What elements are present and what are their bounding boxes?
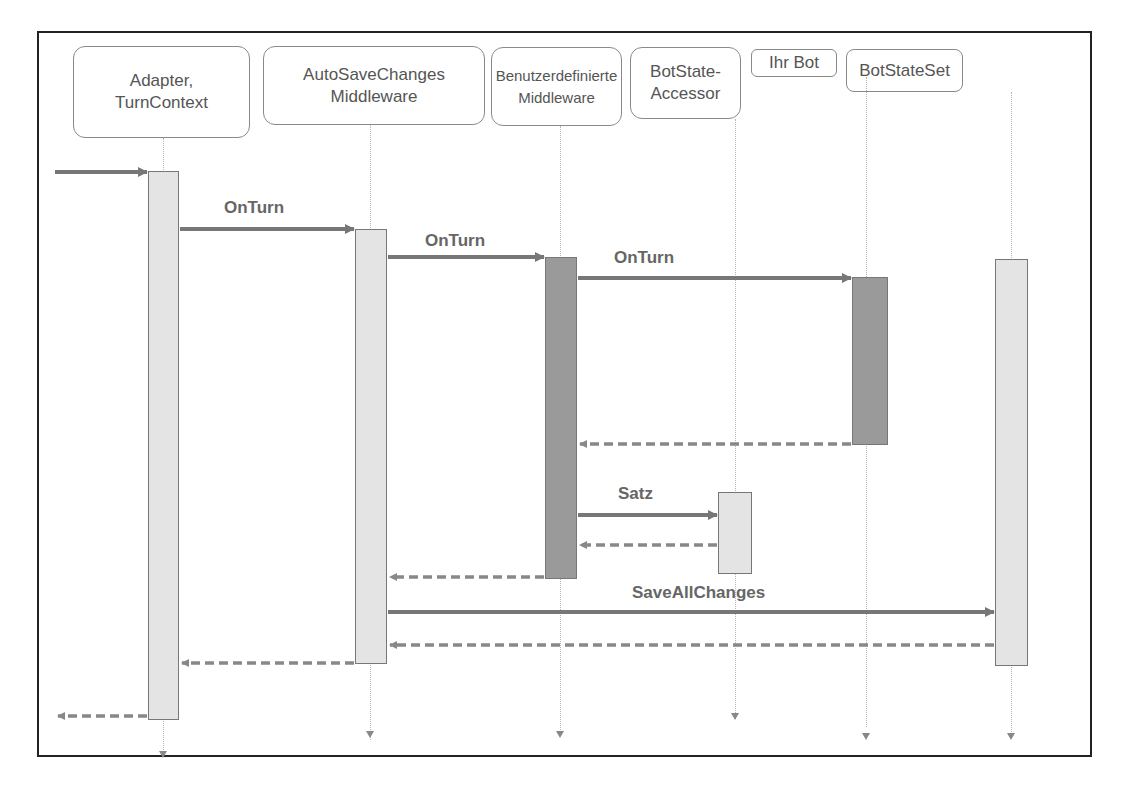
- participant-adapter-turncontext: Adapter,TurnContext: [73, 46, 250, 138]
- lifeline-accessor: [735, 119, 736, 719]
- participant-label-line2: Middleware: [496, 87, 618, 109]
- message-label-onturn-1: OnTurn: [224, 198, 284, 218]
- participant-your-bot: Ihr Bot: [751, 49, 837, 77]
- participant-label: Ihr Bot: [769, 52, 819, 74]
- activation-accessor: [718, 492, 752, 574]
- message-label-onturn-2: OnTurn: [425, 231, 485, 251]
- message-label-satz: Satz: [618, 484, 653, 504]
- participant-autosavechanges-middleware: AutoSaveChangesMiddleware: [263, 46, 485, 125]
- participant-label-line1: BotState-: [650, 61, 721, 83]
- activation-autosave: [355, 229, 387, 664]
- participant-label-line1: Adapter,: [115, 70, 208, 92]
- participant-custom-middleware: BenutzerdefinierteMiddleware: [491, 47, 622, 126]
- participant-label-line2: Accessor: [650, 83, 721, 105]
- lifeline-end-arrow-icon: [862, 733, 870, 740]
- participant-label-line1: Benutzerdefinierte: [496, 65, 618, 87]
- participant-botstateset: BotStateSet: [846, 49, 963, 92]
- participant-label-line2: Middleware: [303, 86, 445, 108]
- lifeline-end-arrow-icon: [159, 751, 167, 758]
- participant-label: BotStateSet: [859, 60, 950, 82]
- message-label-saveallchanges: SaveAllChanges: [632, 583, 765, 603]
- lifeline-end-arrow-icon: [556, 731, 564, 738]
- lifeline-end-arrow-icon: [731, 713, 739, 720]
- message-label-onturn-3: OnTurn: [614, 248, 674, 268]
- activation-adapter: [148, 171, 179, 720]
- participant-label-line2: TurnContext: [115, 92, 208, 114]
- participant-label-line1: AutoSaveChanges: [303, 64, 445, 86]
- activation-bot: [852, 277, 888, 445]
- participant-botstate-accessor: BotState-Accessor: [630, 47, 741, 119]
- activation-stateset: [995, 259, 1028, 666]
- lifeline-end-arrow-icon: [366, 731, 374, 738]
- activation-custom: [545, 257, 577, 579]
- lifeline-end-arrow-icon: [1007, 733, 1015, 740]
